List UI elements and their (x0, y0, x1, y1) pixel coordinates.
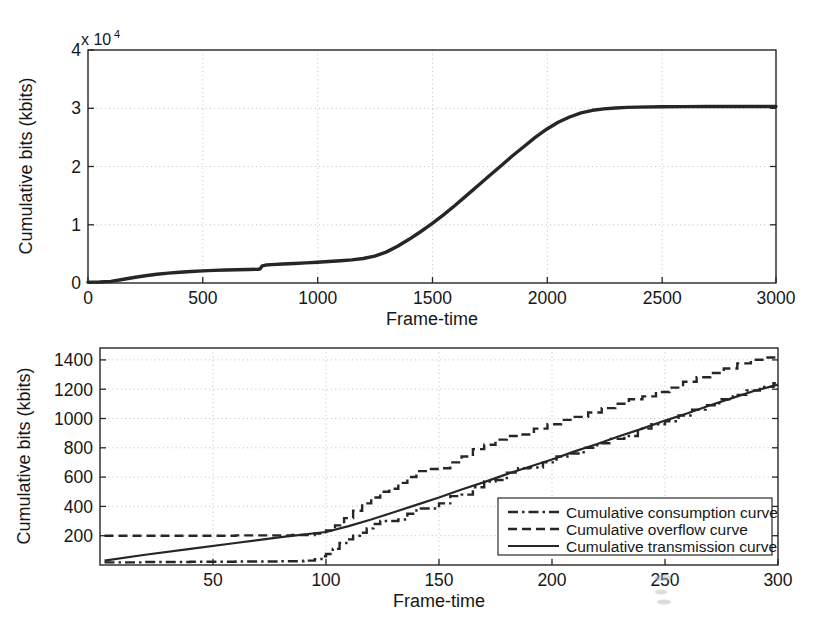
bottom-chart-ylabel: Cumulative bits (kbits) (14, 367, 34, 544)
top-chart-ytick-2: 2 (71, 157, 81, 177)
top-chart-ylabel: Cumulative bits (kbits) (16, 77, 36, 254)
bottom-chart-xtick-3: 200 (537, 570, 566, 590)
top-chart-ytick-3: 3 (71, 98, 81, 118)
top-chart-y-multiplier-exponent: 4 (114, 28, 120, 40)
top-chart-xlabel: Frame-time (386, 309, 478, 329)
bottom-chart-xlabel: Frame-time (393, 591, 485, 611)
legend-label-consumption: Cumulative consumption curve (566, 504, 778, 521)
bottom-chart-xtick-5: 300 (763, 570, 792, 590)
top-chart-x-ticks (88, 277, 776, 283)
bottom-chart-xtick-1: 100 (311, 570, 340, 590)
bottom-chart-figure: 200 400 600 800 1000 1200 1400 50 100 15… (0, 330, 818, 630)
top-chart-ytick-1: 1 (71, 215, 81, 235)
figure-page: x 10 4 0 1 2 3 4 0 500 1000 1500 2000 25… (0, 0, 818, 630)
bottom-chart-ytick-6: 1400 (54, 350, 93, 370)
bottom-chart-legend: Cumulative consumption curve Cumulative … (498, 498, 778, 555)
top-chart-xtick-4: 2000 (528, 288, 567, 308)
legend-label-transmission: Cumulative transmission curve (566, 538, 777, 555)
top-chart-y-multiplier: x 10 (81, 31, 111, 48)
bottom-chart-xtick-0: 50 (203, 570, 223, 590)
bottom-chart-svg: 200 400 600 800 1000 1200 1400 50 100 15… (0, 330, 818, 630)
top-chart-xtick-6: 3000 (757, 288, 796, 308)
top-chart-xtick-5: 2500 (643, 288, 682, 308)
top-chart-xtick-3: 1500 (413, 288, 452, 308)
top-chart-series-cumulative-bits (88, 107, 776, 283)
top-chart-x-tick-labels: 0 500 1000 1500 2000 2500 3000 (83, 288, 796, 308)
bottom-chart-xtick-2: 150 (424, 570, 453, 590)
legend-label-overflow: Cumulative overflow curve (566, 521, 748, 538)
top-chart-y-tick-labels: 0 1 2 3 4 (71, 40, 81, 293)
top-chart-figure: x 10 4 0 1 2 3 4 0 500 1000 1500 2000 25… (0, 0, 818, 330)
top-chart-xtick-1: 500 (188, 288, 217, 308)
bottom-chart-ytick-3: 800 (64, 438, 93, 458)
top-chart-horizontal-gridlines (88, 108, 776, 225)
bottom-chart-ytick-4: 1000 (54, 409, 93, 429)
bottom-chart-ytick-5: 1200 (54, 380, 93, 400)
top-chart-svg: x 10 4 0 1 2 3 4 0 500 1000 1500 2000 25… (0, 0, 818, 330)
top-chart-ytick-4: 4 (71, 40, 81, 60)
top-chart-ytick-0: 0 (71, 273, 81, 293)
bottom-chart-ytick-2: 600 (64, 467, 93, 487)
bottom-chart-x-tick-labels: 50 100 150 200 250 300 (203, 570, 793, 590)
top-chart-xtick-2: 1000 (298, 288, 337, 308)
top-chart-xtick-0: 0 (83, 288, 93, 308)
bottom-chart-ytick-0: 200 (64, 526, 93, 546)
bottom-chart-ytick-1: 400 (64, 497, 93, 517)
bottom-chart-y-tick-labels: 200 400 600 800 1000 1200 1400 (54, 350, 93, 546)
